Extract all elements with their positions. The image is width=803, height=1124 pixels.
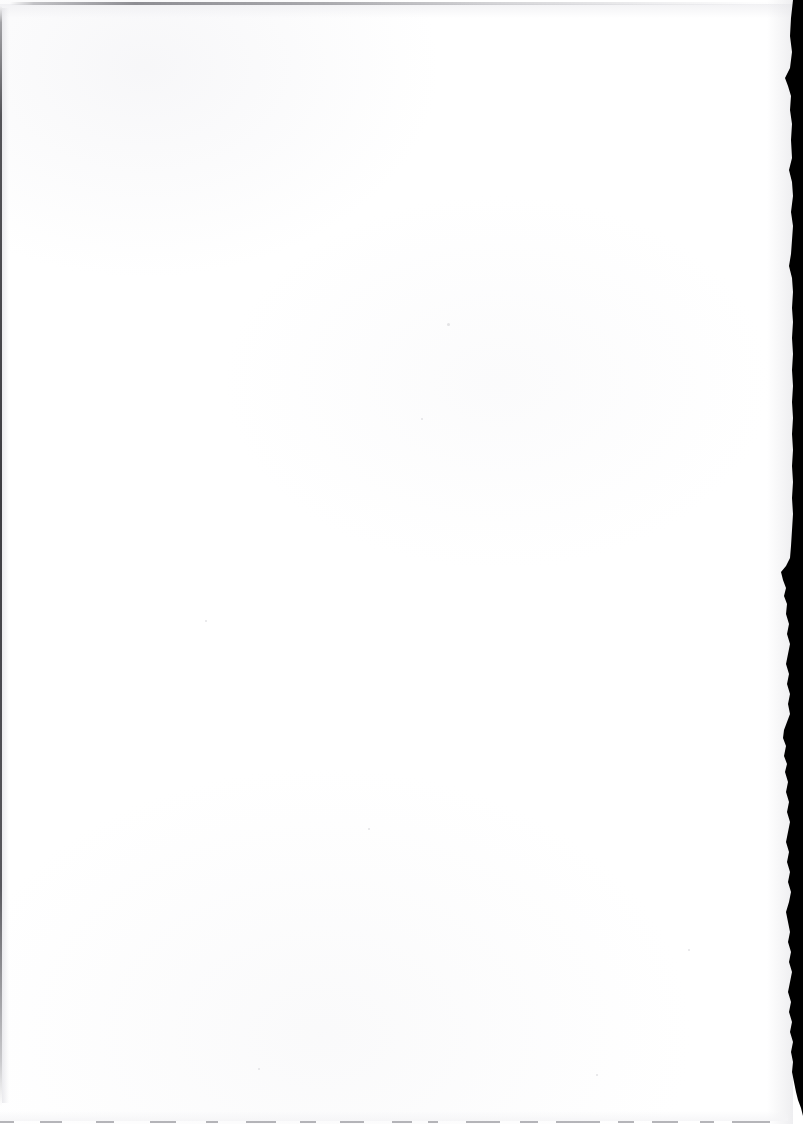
scan-specks xyxy=(0,0,803,1124)
scan-speck xyxy=(688,949,690,951)
scan-speck xyxy=(368,828,370,830)
scan-speck xyxy=(447,323,450,326)
scan-speck xyxy=(205,620,207,622)
scanned-page xyxy=(0,0,803,1124)
scan-speck xyxy=(421,418,423,420)
scan-speck xyxy=(258,1068,260,1070)
scan-speck xyxy=(596,1074,598,1076)
